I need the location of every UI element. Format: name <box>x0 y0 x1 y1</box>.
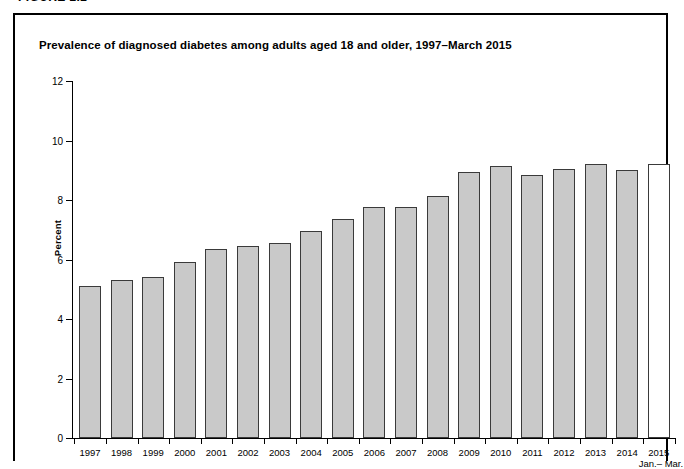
x-tick <box>422 438 423 444</box>
x-tick-label-year: 2004 <box>301 447 322 458</box>
y-tick-8 <box>66 200 72 201</box>
y-tick-label: 12 <box>52 76 63 87</box>
y-tick-2 <box>66 379 72 380</box>
x-tick-label-year: 2009 <box>459 447 480 458</box>
bar-2007 <box>395 207 417 438</box>
x-tick-label-year: 2015 <box>648 447 669 458</box>
y-axis-title: Percent <box>52 220 63 256</box>
bar-1999 <box>142 277 164 438</box>
bar-2000 <box>174 262 196 438</box>
x-tick <box>390 438 391 444</box>
x-tick <box>548 438 549 444</box>
bar-2004 <box>300 231 322 438</box>
bar-2013 <box>585 164 607 438</box>
y-axis-line <box>72 81 73 438</box>
bar-2012 <box>553 169 575 438</box>
x-axis-line <box>72 438 676 439</box>
x-tick-label-year: 2006 <box>364 447 385 458</box>
x-tick <box>327 438 328 444</box>
bar-2010 <box>490 166 512 438</box>
x-tick <box>675 438 676 444</box>
x-tick <box>454 438 455 444</box>
figure-label: FIGURE 2.2 <box>18 0 87 4</box>
x-tick-label-year: 2012 <box>553 447 574 458</box>
bar-2001 <box>205 249 227 438</box>
bar-2014 <box>616 170 638 438</box>
chart-title: Prevalence of diagnosed diabetes among a… <box>39 39 512 51</box>
y-tick-4 <box>66 319 72 320</box>
x-tick <box>138 438 139 444</box>
y-tick-6 <box>66 260 72 261</box>
x-tick-label-year: 1999 <box>143 447 164 458</box>
y-tick-label: 6 <box>57 254 63 265</box>
x-tick-label-year: 2001 <box>206 447 227 458</box>
bar-1997 <box>79 286 101 438</box>
x-tick <box>106 438 107 444</box>
bar-1998 <box>111 280 133 438</box>
bar-2003 <box>269 243 291 438</box>
x-tick-label-year: 2010 <box>490 447 511 458</box>
x-tick-label-year: 1998 <box>111 447 132 458</box>
bar-2015 <box>648 164 670 438</box>
y-tick-label: 10 <box>52 135 63 146</box>
y-tick-label: 4 <box>57 314 63 325</box>
y-tick-12 <box>66 81 72 82</box>
x-tick <box>169 438 170 444</box>
x-tick <box>580 438 581 444</box>
x-tick-label-year: 2013 <box>585 447 606 458</box>
bar-2009 <box>458 172 480 438</box>
plot-area: 024681012 199719981999200020012002200320… <box>72 81 684 438</box>
bar-2005 <box>332 219 354 438</box>
x-tick <box>296 438 297 444</box>
y-tick-label: 8 <box>57 195 63 206</box>
bar-2006 <box>363 207 385 438</box>
x-tick <box>485 438 486 444</box>
y-tick-label: 2 <box>57 373 63 384</box>
y-tick-label: 0 <box>57 433 63 444</box>
x-tick <box>359 438 360 444</box>
bar-2002 <box>237 246 259 438</box>
figure-frame: Prevalence of diagnosed diabetes among a… <box>13 13 668 461</box>
x-tick <box>74 438 75 444</box>
x-tick-label-year: 2008 <box>427 447 448 458</box>
x-tick-label-year: 2005 <box>332 447 353 458</box>
bar-2011 <box>521 175 543 438</box>
x-tick <box>612 438 613 444</box>
y-tick-10 <box>66 141 72 142</box>
x-tick <box>232 438 233 444</box>
x-tick-label-year: 2000 <box>174 447 195 458</box>
x-tick <box>201 438 202 444</box>
x-tick <box>517 438 518 444</box>
x-tick-label-year: 1997 <box>79 447 100 458</box>
x-tick-label-year: 2002 <box>237 447 258 458</box>
bar-2008 <box>427 196 449 438</box>
x-tick-label-year: 2003 <box>269 447 290 458</box>
x-tick-label-year: 2014 <box>617 447 638 458</box>
x-tick <box>643 438 644 444</box>
x-tick <box>264 438 265 444</box>
x-tick-label-year: 2011 <box>522 447 542 458</box>
x-tick-label-sublabel: Jan.– Mar. <box>639 458 679 469</box>
x-tick-label-2015: 2015Jan.– Mar. <box>639 447 679 469</box>
y-tick-0 <box>66 438 72 439</box>
x-tick-label-year: 2007 <box>395 447 416 458</box>
